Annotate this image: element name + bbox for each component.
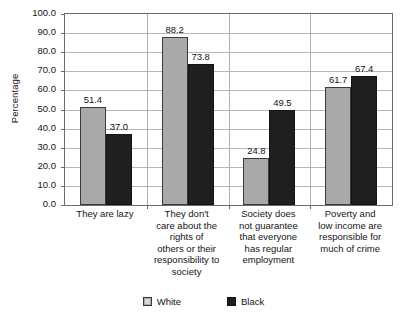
bar-black-1[interactable]	[188, 64, 214, 205]
bar-value-label: 73.8	[180, 51, 222, 62]
x-axis-category-labels: They are lazyThey don'tcare about therig…	[64, 208, 393, 288]
bar-value-label: 51.4	[72, 94, 114, 105]
category-label-line: They are lazy	[64, 208, 146, 220]
category-label-line: care about the	[146, 220, 228, 232]
y-tick-label: 70.0	[0, 65, 56, 75]
y-tick-mark	[61, 205, 65, 206]
bar-value-label: 67.4	[343, 63, 385, 74]
legend-label: White	[157, 296, 181, 307]
y-tick-label: 10.0	[0, 180, 56, 190]
bar-value-label: 49.5	[261, 97, 303, 108]
legend-item-white[interactable]: White	[143, 296, 181, 307]
bar-white-3[interactable]	[325, 87, 351, 205]
bar-white-2[interactable]	[243, 158, 269, 205]
category-label-2: Society doesnot guaranteethat everyoneha…	[228, 208, 310, 266]
category-label-line: has regular	[228, 243, 310, 255]
bar-chart: Percentage 100.090.080.070.060.050.040.0…	[0, 0, 407, 321]
category-label-line: employment	[228, 254, 310, 266]
black-square-swatch	[227, 297, 236, 306]
plot-area: 51.437.088.273.824.849.561.767.4	[64, 13, 393, 206]
y-tick-label: 50.0	[0, 104, 56, 114]
category-label-line: Society does	[228, 208, 310, 220]
category-label-line: responsibility to	[146, 254, 228, 266]
category-label-line: others or their	[146, 243, 228, 255]
y-tick-label: 40.0	[0, 123, 56, 133]
category-label-1: They don'tcare about therights ofothers …	[146, 208, 228, 278]
y-tick-label: 60.0	[0, 84, 56, 94]
legend-label: Black	[241, 296, 264, 307]
category-label-line: Poverty and	[309, 208, 391, 220]
bar-value-label: 37.0	[98, 121, 140, 132]
category-label-0: They are lazy	[64, 208, 146, 220]
legend-item-black[interactable]: Black	[227, 296, 264, 307]
y-tick-label: 30.0	[0, 142, 56, 152]
category-label-line: not guarantee	[228, 220, 310, 232]
y-tick-label: 20.0	[0, 161, 56, 171]
bars-layer: 51.437.088.273.824.849.561.767.4	[65, 14, 392, 205]
gray-square-swatch	[143, 297, 152, 306]
y-axis-tick-labels: 100.090.080.070.060.050.040.030.020.010.…	[0, 0, 61, 210]
category-label-line: low income are	[309, 220, 391, 232]
category-label-line: society	[146, 266, 228, 278]
category-label-3: Poverty andlow income areresponsible for…	[309, 208, 391, 254]
category-label-line: rights of	[146, 231, 228, 243]
y-tick-label: 0.0	[0, 199, 56, 209]
y-tick-label: 100.0	[0, 8, 56, 18]
bar-value-label: 88.2	[154, 24, 196, 35]
bar-black-2[interactable]	[269, 110, 295, 205]
bar-black-3[interactable]	[351, 76, 377, 205]
y-tick-label: 80.0	[0, 46, 56, 56]
category-label-line: responsible for	[309, 231, 391, 243]
category-label-line: They don't	[146, 208, 228, 220]
chart-legend: WhiteBlack	[0, 296, 407, 307]
bar-black-0[interactable]	[106, 134, 132, 205]
y-tick-label: 90.0	[0, 27, 56, 37]
category-label-line: that everyone	[228, 231, 310, 243]
category-label-line: much of crime	[309, 243, 391, 255]
